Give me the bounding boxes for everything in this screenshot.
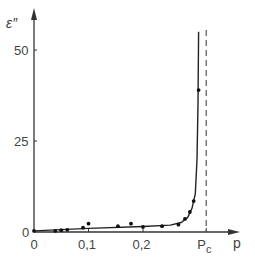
data-point [183, 217, 187, 221]
x-tick-label: Pc [197, 238, 211, 255]
data-point [87, 222, 91, 226]
fitted-curve [34, 32, 199, 231]
x-tick-label: 0,2 [133, 238, 151, 251]
data-point [160, 224, 164, 228]
x-tick-label: 0,1 [78, 238, 96, 251]
data-point [177, 223, 181, 227]
y-axis-arrow-icon [31, 8, 37, 20]
axes [31, 8, 240, 235]
y-tick-label: 25 [14, 135, 28, 148]
data-point [59, 228, 63, 232]
data-points [32, 88, 200, 233]
data-point [65, 228, 69, 232]
data-point [192, 199, 196, 203]
chart-plot [0, 0, 255, 263]
data-point [141, 225, 145, 229]
y-tick-label: 0 [22, 226, 29, 239]
data-point [81, 226, 85, 230]
data-point [116, 224, 120, 228]
x-axis-label: p [233, 236, 241, 250]
curve-path [34, 32, 199, 231]
data-point [188, 210, 192, 214]
y-axis-label: ε″ [6, 16, 17, 30]
y-tick-label: 50 [14, 44, 28, 57]
data-point [197, 88, 201, 92]
data-point [129, 222, 133, 226]
x-tick-label: 0 [31, 238, 38, 251]
data-point [32, 229, 36, 233]
data-point [53, 229, 57, 233]
